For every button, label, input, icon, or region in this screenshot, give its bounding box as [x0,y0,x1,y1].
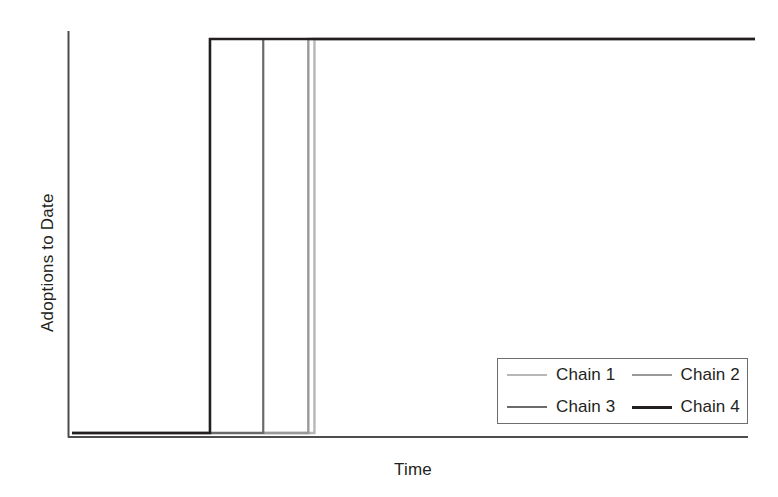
legend-swatch-chain-2 [632,374,672,376]
x-axis-title: Time [0,460,778,480]
legend-label-chain-3: Chain 3 [556,397,615,417]
legend-item-chain-4: Chain 4 [623,391,748,423]
y-axis-title-text: Adoptions to Date [38,193,58,332]
legend-item-chain-2: Chain 2 [623,359,748,391]
x-axis-title-text: Time [394,460,432,480]
legend-label-chain-1: Chain 1 [556,365,615,385]
legend-swatch-chain-3 [507,406,547,408]
legend-swatch-chain-1 [507,374,547,376]
legend-swatch-chain-4 [632,406,672,409]
legend-label-chain-4: Chain 4 [681,397,740,417]
chart-legend: Chain 1 Chain 2 Chain 3 Chain 4 [497,358,748,424]
legend-item-chain-1: Chain 1 [498,359,623,391]
legend-label-chain-2: Chain 2 [681,365,740,385]
legend-item-chain-3: Chain 3 [498,391,623,423]
chart-page: Adoptions to Date Time Chain 1 Chain 2 C… [0,0,778,497]
